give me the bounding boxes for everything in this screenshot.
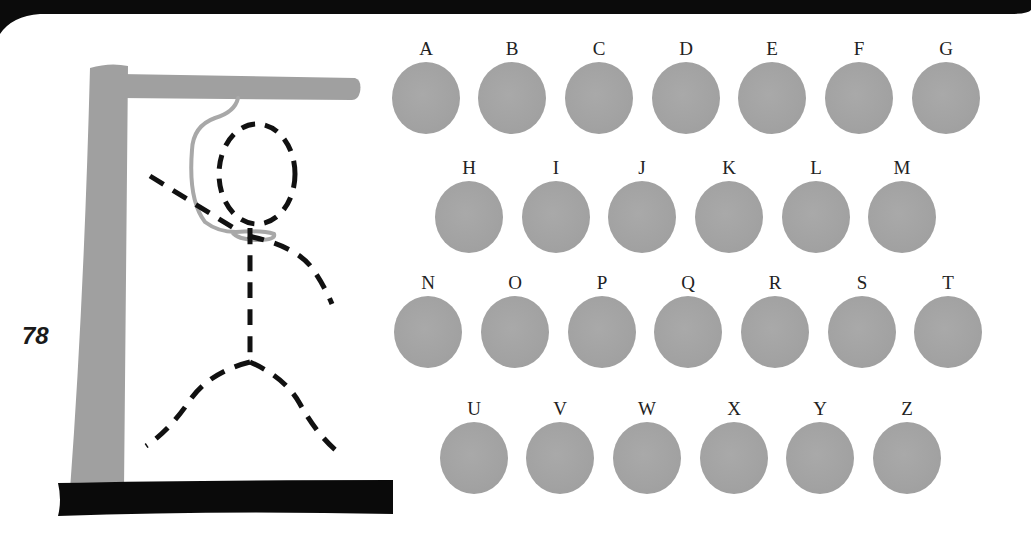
letter-label: T <box>912 270 984 296</box>
letter-key-l[interactable]: L <box>780 155 852 253</box>
letter-key-t[interactable]: T <box>912 270 984 368</box>
letter-disc <box>565 62 633 134</box>
letter-disc <box>522 181 590 253</box>
letter-key-o[interactable]: O <box>479 270 551 368</box>
letter-label: R <box>739 270 811 296</box>
letter-key-n[interactable]: N <box>392 270 464 368</box>
letter-key-j[interactable]: J <box>606 155 678 253</box>
letter-label: W <box>611 396 683 422</box>
letter-disc <box>608 181 676 253</box>
letter-key-s[interactable]: S <box>826 270 898 368</box>
letter-disc <box>478 62 546 134</box>
letter-label: M <box>866 155 938 181</box>
letter-key-r[interactable]: R <box>739 270 811 368</box>
letter-disc <box>394 296 462 368</box>
letter-disc <box>825 62 893 134</box>
letter-label: Z <box>871 396 943 422</box>
letter-label: P <box>566 270 638 296</box>
letter-label: H <box>433 155 505 181</box>
letter-label: G <box>910 36 982 62</box>
letter-key-c[interactable]: C <box>563 36 635 134</box>
letter-disc <box>481 296 549 368</box>
letter-board: A B C D E F G H I J K L M N O P Q R S T … <box>0 0 1031 558</box>
letter-disc <box>435 181 503 253</box>
letter-key-m[interactable]: M <box>866 155 938 253</box>
letter-label: B <box>476 36 548 62</box>
letter-key-q[interactable]: Q <box>652 270 724 368</box>
letter-label: Q <box>652 270 724 296</box>
letter-label: A <box>390 36 462 62</box>
letter-key-d[interactable]: D <box>650 36 722 134</box>
letter-key-v[interactable]: V <box>524 396 596 494</box>
letter-label: D <box>650 36 722 62</box>
letter-key-u[interactable]: U <box>438 396 510 494</box>
letter-key-i[interactable]: I <box>520 155 592 253</box>
letter-disc <box>440 422 508 494</box>
letter-disc <box>741 296 809 368</box>
letter-disc <box>392 62 460 134</box>
letter-key-k[interactable]: K <box>693 155 765 253</box>
letter-disc <box>782 181 850 253</box>
letter-label: J <box>606 155 678 181</box>
letter-key-e[interactable]: E <box>736 36 808 134</box>
letter-disc <box>568 296 636 368</box>
letter-key-w[interactable]: W <box>611 396 683 494</box>
letter-disc <box>700 422 768 494</box>
letter-disc <box>786 422 854 494</box>
letter-key-f[interactable]: F <box>823 36 895 134</box>
letter-label: S <box>826 270 898 296</box>
letter-disc <box>613 422 681 494</box>
letter-disc <box>914 296 982 368</box>
letter-label: K <box>693 155 765 181</box>
letter-disc <box>526 422 594 494</box>
letter-disc <box>868 181 936 253</box>
letter-key-h[interactable]: H <box>433 155 505 253</box>
letter-label: X <box>698 396 770 422</box>
letter-key-z[interactable]: Z <box>871 396 943 494</box>
letter-key-a[interactable]: A <box>390 36 462 134</box>
letter-disc <box>652 62 720 134</box>
letter-key-p[interactable]: P <box>566 270 638 368</box>
letter-key-g[interactable]: G <box>910 36 982 134</box>
letter-label: I <box>520 155 592 181</box>
letter-disc <box>828 296 896 368</box>
letter-label: N <box>392 270 464 296</box>
letter-label: O <box>479 270 551 296</box>
letter-disc <box>695 181 763 253</box>
letter-label: L <box>780 155 852 181</box>
letter-disc <box>873 422 941 494</box>
letter-key-b[interactable]: B <box>476 36 548 134</box>
letter-label: E <box>736 36 808 62</box>
letter-label: Y <box>784 396 856 422</box>
letter-label: C <box>563 36 635 62</box>
letter-disc <box>912 62 980 134</box>
letter-disc <box>654 296 722 368</box>
letter-label: V <box>524 396 596 422</box>
letter-label: U <box>438 396 510 422</box>
letter-disc <box>738 62 806 134</box>
letter-key-x[interactable]: X <box>698 396 770 494</box>
letter-label: F <box>823 36 895 62</box>
letter-key-y[interactable]: Y <box>784 396 856 494</box>
